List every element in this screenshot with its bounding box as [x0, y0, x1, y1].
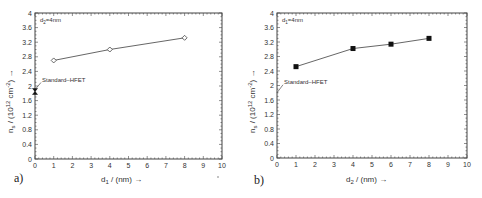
y-tick-label: 3.6	[22, 24, 32, 31]
x-axis-label-a: d1 / (nm) →	[101, 175, 142, 185]
chart-panel-a: 01234567891000.40.81.21.622.42.83.23.64S…	[22, 10, 226, 170]
data-point-marker	[294, 64, 299, 69]
x-tick-label: 10	[218, 162, 226, 169]
reference-label: Standard–HFET	[284, 79, 328, 85]
y-tick-label: 1.6	[22, 97, 32, 104]
data-point-marker	[389, 42, 394, 47]
y-tick-label: 4	[28, 10, 32, 17]
x-tick-label: 9	[201, 162, 205, 169]
y-tick-label: 2	[28, 83, 32, 90]
y-tick-label: 2.4	[22, 68, 32, 75]
panel-label-a: a)	[14, 171, 23, 185]
annotation-a: d2=4nm	[40, 17, 61, 25]
stray-mark	[217, 176, 219, 178]
x-tick-label: 7	[164, 162, 168, 169]
x-tick-label: 6	[145, 162, 149, 169]
x-tick-label: 3	[332, 161, 336, 168]
x-axis-label-b: d2 / (nm) →	[346, 175, 387, 185]
y-tick-label: 3.2	[22, 39, 32, 46]
y-tick-label: 2.8	[22, 53, 32, 60]
x-tick-label: 10	[463, 161, 471, 168]
data-point-marker	[182, 35, 187, 40]
x-tick-label: 4	[351, 161, 355, 168]
x-tick-label: 1	[52, 162, 56, 169]
x-tick-label: 0	[275, 161, 279, 168]
y-tick-label: 2.4	[264, 68, 274, 75]
annotation-b: d1=4nm	[282, 17, 303, 25]
y-axis-label-b: ns / (1012 cm-2) →	[247, 70, 258, 134]
y-tick-label: 1.2	[22, 112, 32, 119]
y-tick-label: 0.8	[22, 126, 32, 133]
series-line	[54, 38, 185, 61]
y-axis-label-a: ns / (1012 cm-2) →	[5, 70, 16, 134]
plot-frame	[277, 13, 467, 158]
y-tick-label: 0.4	[264, 140, 274, 147]
y-tick-label: 0.4	[22, 141, 32, 148]
series-line	[296, 38, 429, 66]
x-tick-label: 7	[408, 161, 412, 168]
y-tick-label: 2.8	[264, 53, 274, 60]
y-tick-label: 1.2	[264, 111, 274, 118]
panel-label-b: b)	[254, 173, 264, 187]
y-tick-label: 1.6	[264, 97, 274, 104]
y-tick-label: 4	[270, 10, 274, 17]
x-tick-label: 3	[89, 162, 93, 169]
y-tick-label: 0.8	[264, 126, 274, 133]
x-tick-label: 5	[370, 161, 374, 168]
data-point-marker	[427, 36, 432, 41]
y-tick-label: 3.2	[264, 39, 274, 46]
x-tick-label: 4	[108, 162, 112, 169]
reference-label: Standard–HFET	[42, 77, 86, 83]
x-tick-label: 2	[70, 162, 74, 169]
y-tick-label: 2	[270, 82, 274, 89]
data-point-marker	[107, 47, 112, 52]
plot-frame	[35, 13, 222, 159]
y-tick-label: 3.6	[264, 24, 274, 31]
x-tick-label: 1	[294, 161, 298, 168]
data-point-marker	[51, 58, 56, 63]
x-tick-label: 2	[313, 161, 317, 168]
x-tick-label: 0	[33, 162, 37, 169]
x-tick-label: 6	[389, 161, 393, 168]
y-tick-label: 0	[270, 155, 274, 162]
y-tick-label: 0	[28, 156, 32, 163]
x-tick-label: 9	[446, 161, 450, 168]
x-tick-label: 8	[183, 162, 187, 169]
figure: 01234567891000.40.81.21.622.42.83.23.64S…	[0, 0, 482, 198]
x-tick-label: 8	[427, 161, 431, 168]
chart-panel-b: 01234567891000.40.81.21.622.42.83.23.64S…	[264, 10, 471, 169]
x-tick-label: 5	[127, 162, 131, 169]
reference-marker	[33, 88, 38, 94]
data-point-marker	[351, 46, 356, 51]
